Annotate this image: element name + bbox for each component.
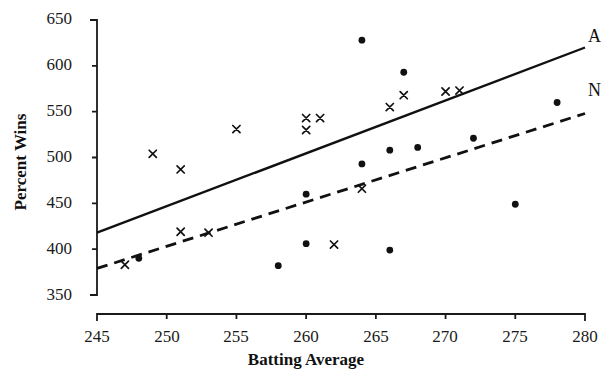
scatter-chart-figure: Percent Wins Batting Average 650 600 550… xyxy=(0,0,612,382)
regression-line-n xyxy=(97,114,585,269)
data-point xyxy=(275,262,282,269)
y-axis-spine xyxy=(90,20,97,295)
data-point xyxy=(316,114,323,121)
data-point xyxy=(470,135,477,142)
data-point xyxy=(303,191,310,198)
data-point xyxy=(303,114,310,121)
data-point xyxy=(149,150,156,157)
data-point xyxy=(456,87,463,94)
data-point xyxy=(386,147,393,154)
data-point xyxy=(303,126,310,133)
data-point xyxy=(330,241,337,248)
data-point xyxy=(400,92,407,99)
data-point xyxy=(177,228,184,235)
data-point xyxy=(442,88,449,95)
data-point xyxy=(512,201,519,208)
data-point xyxy=(177,166,184,173)
axes xyxy=(90,20,585,321)
data-point xyxy=(386,103,393,110)
plot-area xyxy=(0,0,612,382)
data-point xyxy=(303,240,310,247)
data-point xyxy=(554,99,561,106)
data-point xyxy=(358,185,365,192)
regression-line-a xyxy=(97,48,585,233)
data-point xyxy=(135,255,142,262)
data-point xyxy=(414,144,421,151)
data-points-series-n xyxy=(135,37,560,269)
data-point xyxy=(386,247,393,254)
data-point xyxy=(359,37,366,44)
data-point xyxy=(400,69,407,76)
x-axis-spine xyxy=(97,314,585,321)
data-point xyxy=(233,125,240,132)
data-point xyxy=(359,161,366,168)
data-point xyxy=(121,261,128,268)
